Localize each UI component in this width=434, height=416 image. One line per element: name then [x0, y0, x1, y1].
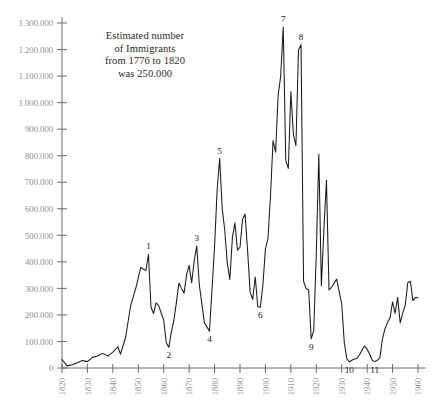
y-axis-tick-label: 400.000	[25, 257, 53, 267]
x-axis-tick-label: 1820	[57, 378, 67, 395]
x-axis-tick-label: 1880	[210, 378, 220, 395]
data-point-label-6: 6	[258, 310, 263, 320]
chart-annotation: Estimated number of Immigrants from 1776…	[62, 30, 228, 80]
annotation-line-1: Estimated number	[62, 30, 228, 43]
y-axis-tick-label: 1.300.000	[19, 18, 53, 28]
annotation-line-4: was 250.000	[62, 68, 228, 81]
data-point-label-5: 5	[217, 146, 222, 156]
x-axis-tick-label: 1900	[261, 378, 271, 395]
y-axis-tick-label: 900.000	[25, 124, 53, 134]
data-point-label-7: 7	[281, 14, 286, 24]
x-axis-tick-label: 1850	[133, 378, 143, 395]
x-axis-tick-label: 1860	[159, 378, 169, 395]
annotation-line-3: from 1776 to 1820	[62, 55, 228, 68]
y-axis-tick-label: 1.000.000	[19, 98, 53, 108]
x-axis-tick-label: 1930	[337, 378, 347, 395]
x-axis-tick-label: 1870	[184, 378, 194, 395]
y-axis-tick-label: 200.000	[25, 310, 53, 320]
data-point-label-1: 1	[146, 241, 151, 251]
data-point-label-9: 9	[309, 342, 314, 352]
x-axis-tick-label: 1890	[235, 378, 245, 395]
y-axis-tick-label: 800.000	[25, 151, 53, 161]
data-point-label-8: 8	[299, 32, 304, 42]
data-point-label-11: 11	[370, 365, 379, 375]
y-axis-tick-label: 1.200.000	[19, 45, 53, 55]
x-axis-tick-label: 1950	[388, 378, 398, 395]
data-point-label-10: 10	[345, 365, 355, 375]
x-axis-tick-label: 1840	[108, 378, 118, 395]
y-axis-tick-label: 0	[49, 363, 53, 373]
y-axis-tick-label: 600.000	[25, 204, 53, 214]
y-axis-tick-label: 300.000	[25, 284, 53, 294]
annotation-line-2: of Immigrants	[62, 43, 228, 56]
data-point-label-3: 3	[194, 233, 199, 243]
immigration-chart: 1.300.0001.200.0001.100.0001.000.000900.…	[0, 0, 434, 416]
y-axis: 1.300.0001.200.0001.100.0001.000.000900.…	[19, 17, 67, 373]
y-axis-tick-label: 700.000	[25, 177, 53, 187]
x-axis-tick-label: 1960	[413, 378, 423, 395]
x-axis-tick-label: 1920	[311, 378, 321, 395]
data-point-label-4: 4	[207, 334, 212, 344]
y-axis-tick-label: 1.100.000	[19, 71, 53, 81]
x-axis-tick-label: 1910	[286, 378, 296, 395]
y-axis-tick-label: 100.000	[25, 337, 53, 347]
x-axis-tick-label: 1940	[362, 378, 372, 395]
data-point-label-2: 2	[167, 350, 172, 360]
y-axis-tick-label: 500.000	[25, 231, 53, 241]
x-axis-tick-label: 1830	[83, 378, 93, 395]
